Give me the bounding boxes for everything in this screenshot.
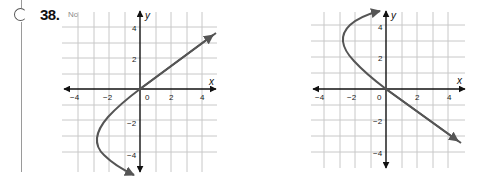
right-xtick: −4 [315, 93, 325, 102]
left-xtick: −2 [103, 93, 113, 102]
right-ytick: 4 [378, 23, 383, 32]
right-ytick: 2 [378, 54, 383, 63]
left-x-label: x [208, 76, 215, 87]
right-xtick: 4 [447, 93, 452, 102]
right-y-label: y [390, 10, 397, 21]
left-xtick: −4 [70, 93, 80, 102]
left-graph: −4 −2 0 2 4 4 2 −2 −4 y x [62, 10, 217, 175]
right-ytick: −4 [373, 149, 383, 158]
right-ytick: −2 [373, 117, 383, 126]
right-xtick: 2 [415, 93, 420, 102]
left-y-label: y [144, 10, 151, 21]
left-ytick: −2 [127, 119, 137, 128]
left-xtick: 2 [169, 93, 174, 102]
graphs: −4 −2 0 2 4 4 2 −2 −4 y x [0, 0, 499, 182]
left-ytick: −4 [127, 151, 137, 160]
left-ytick: 4 [132, 24, 137, 33]
left-xtick: 4 [200, 93, 205, 102]
right-xtick: −2 [347, 93, 357, 102]
right-graph: −4 −2 0 2 4 4 2 −2 −4 y x [311, 10, 465, 168]
right-x-label: x [456, 75, 463, 86]
left-ytick: 2 [132, 55, 137, 64]
left-xtick: 0 [145, 93, 150, 102]
right-xtick: 0 [377, 93, 382, 102]
